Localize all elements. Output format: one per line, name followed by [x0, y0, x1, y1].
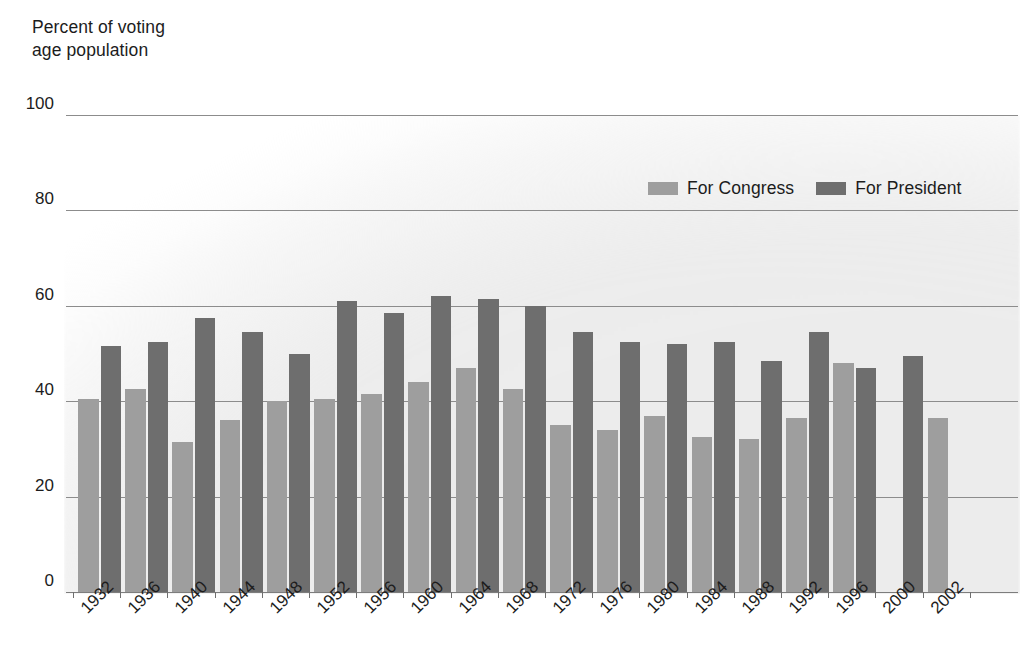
x-tick-1976	[592, 592, 593, 598]
x-tick-1932	[73, 592, 74, 598]
bar-1996-president	[856, 368, 877, 592]
y-tick-label-0: 0	[0, 571, 54, 591]
x-tick-1960	[403, 592, 404, 598]
bar-1972-congress	[550, 425, 571, 592]
bar-1992-president	[809, 332, 830, 592]
legend-entry-president: For President	[816, 178, 961, 199]
bar-1948-congress	[267, 401, 288, 592]
president-swatch-icon	[816, 182, 846, 195]
x-tick-1984	[687, 592, 688, 598]
x-tick-1936	[120, 592, 121, 598]
bar-1932-president	[101, 346, 122, 592]
bar-1952-president	[337, 301, 358, 592]
bar-1956-congress	[361, 394, 382, 592]
bar-1964-president	[478, 299, 499, 592]
x-axis-ticks	[66, 592, 1018, 599]
bar-1980-congress	[644, 416, 665, 592]
bar-1940-president	[195, 318, 216, 592]
bar-1948-president	[289, 354, 310, 593]
bar-1964-congress	[456, 368, 477, 592]
bar-1984-congress	[692, 437, 713, 592]
x-tick-1996	[828, 592, 829, 598]
bar-1952-congress	[314, 399, 335, 592]
x-tick-1948	[262, 592, 263, 598]
bar-1932-congress	[78, 399, 99, 592]
bar-2002-congress	[928, 418, 949, 592]
legend-entry-congress: For Congress	[648, 178, 794, 199]
chart-legend: For Congress For President	[648, 178, 962, 199]
bar-1944-president	[242, 332, 263, 592]
bar-1968-president	[525, 306, 546, 592]
bar-1972-president	[573, 332, 594, 592]
bar-1944-congress	[220, 420, 241, 592]
bar-1960-congress	[408, 382, 429, 592]
y-tick-label-100: 100	[0, 94, 54, 114]
x-tick-1964	[451, 592, 452, 598]
y-tick-label-40: 40	[0, 380, 54, 400]
bar-1988-president	[761, 361, 782, 592]
y-tick-label-60: 60	[0, 285, 54, 305]
legend-label-congress: For Congress	[687, 178, 794, 199]
x-tick-1944	[215, 592, 216, 598]
bar-1936-congress	[125, 389, 146, 592]
x-tick-1940	[167, 592, 168, 598]
bar-1976-congress	[597, 430, 618, 592]
x-tick-1956	[356, 592, 357, 598]
bar-1968-congress	[503, 389, 524, 592]
bar-1956-president	[384, 313, 405, 592]
x-tick-1992	[781, 592, 782, 598]
x-tick-end	[970, 592, 971, 598]
x-tick-1980	[639, 592, 640, 598]
x-tick-1972	[545, 592, 546, 598]
x-tick-1988	[734, 592, 735, 598]
y-tick-label-20: 20	[0, 476, 54, 496]
bar-1940-congress	[172, 442, 193, 592]
bar-1996-congress	[833, 363, 854, 592]
x-tick-2002	[923, 592, 924, 598]
x-tick-1952	[309, 592, 310, 598]
legend-label-president: For President	[855, 178, 961, 199]
congress-swatch-icon	[648, 182, 678, 195]
x-tick-2000	[875, 592, 876, 598]
bar-2000-president	[903, 356, 924, 592]
bar-1976-president	[620, 342, 641, 592]
bar-1984-president	[714, 342, 735, 592]
bar-1988-congress	[739, 439, 760, 592]
bar-1992-congress	[786, 418, 807, 592]
x-tick-1968	[498, 592, 499, 598]
bar-1960-president	[431, 296, 452, 592]
y-tick-label-80: 80	[0, 189, 54, 209]
voter-turnout-chart: Percent of voting age population 0204060…	[0, 0, 1034, 649]
bar-1980-president	[667, 344, 688, 592]
bar-1936-president	[148, 342, 169, 592]
